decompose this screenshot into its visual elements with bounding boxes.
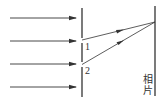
screen-label-char-1: 相: [143, 73, 153, 85]
slit-1-label: 1: [85, 41, 90, 52]
arrowhead-ray-1: [116, 30, 124, 34]
screen-label-char-2: 片: [143, 84, 153, 96]
slit-2-label: 2: [85, 65, 90, 76]
double-slit-diagram: 1 2 相 片: [0, 0, 168, 105]
arrowhead-ray-2: [117, 40, 125, 45]
